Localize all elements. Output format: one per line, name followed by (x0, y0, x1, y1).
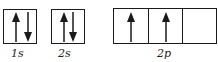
orbital-2p-cell-3 (182, 9, 216, 43)
orbital-label-2s: 2s (58, 48, 71, 59)
orbital-2p-cell-1 (114, 9, 148, 43)
spin-up-arrow-icon (162, 12, 170, 42)
spin-down-arrow-icon (24, 12, 32, 42)
spin-up-arrow-icon (60, 12, 68, 42)
orbital-1s-box (3, 9, 37, 44)
spin-up-arrow-icon (12, 12, 20, 42)
spin-up-arrow-icon (127, 12, 135, 42)
orbital-label-1s: 1s (11, 48, 24, 59)
orbital-2p-box (113, 8, 217, 44)
spin-down-arrow-icon (69, 12, 77, 42)
orbital-2s-box (51, 9, 85, 44)
orbital-2p-cell-2 (148, 9, 182, 43)
orbital-label-2p: 2p (157, 48, 171, 59)
